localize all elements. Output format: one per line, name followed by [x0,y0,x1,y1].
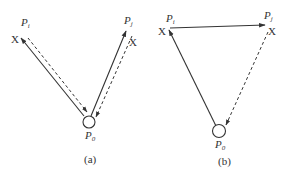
edge-p0-to-pi-solid [21,38,84,116]
pj-label: Pj [123,14,133,28]
edge-p0-to-pi-solid [169,30,216,126]
pi-label: Pi [20,16,30,30]
panel-b: Pi X Pj X P0 (b) [158,9,276,168]
edge-pj-to-p0-dashed [96,36,132,117]
pi-label: Pi [165,12,175,26]
pj-label: Pj [263,9,273,23]
p0-node-circle [83,116,95,128]
p0-label: P0 [84,129,96,143]
panel-a-caption: (a) [84,153,97,166]
pi-x-marker: X [11,33,19,45]
panel-b-caption: (b) [218,155,231,168]
p0-node-circle [213,125,226,138]
pj-x-marker: X [268,25,276,37]
diagram-canvas: Pi X Pj X P0 (a) Pi X Pj X P0 (b) [0,0,282,179]
panel-a: Pi X Pj X P0 (a) [11,14,137,166]
p0-label: P0 [214,138,226,152]
pj-x-marker: X [129,36,137,48]
edge-pi-to-p0-dashed [28,38,87,112]
edge-pj-to-p0-dashed [226,32,268,125]
pi-x-marker: X [158,25,166,37]
edge-p0-to-pj-solid [91,31,126,116]
edge-pi-to-pj-solid [170,25,265,28]
